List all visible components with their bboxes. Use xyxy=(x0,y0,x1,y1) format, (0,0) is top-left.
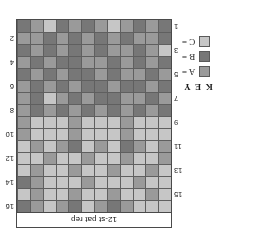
chart-cell xyxy=(56,68,69,80)
chart-cell xyxy=(145,140,158,152)
chart-cell xyxy=(158,200,171,212)
chart-cell xyxy=(158,32,171,44)
chart-cell xyxy=(30,140,43,152)
chart-cell xyxy=(133,44,146,56)
chart-cell xyxy=(56,32,69,44)
chart-row: 4 xyxy=(17,56,171,68)
chart-row-number: 7 xyxy=(174,92,178,104)
chart-cell xyxy=(94,200,107,212)
chart-cell xyxy=(30,80,43,92)
chart-cell xyxy=(81,200,94,212)
chart-cell xyxy=(107,20,120,32)
chart-cell xyxy=(133,68,146,80)
chart-cell xyxy=(81,56,94,68)
chart-cell xyxy=(158,188,171,200)
chart-cell xyxy=(133,140,146,152)
chart-cell xyxy=(94,152,107,164)
chart-cell xyxy=(94,176,107,188)
chart-row-number: 10 xyxy=(6,128,14,140)
chart-cell xyxy=(81,140,94,152)
chart-cell xyxy=(30,188,43,200)
chart-cell xyxy=(133,104,146,116)
chart-row: 5 xyxy=(17,68,171,80)
chart-cell xyxy=(158,164,171,176)
chart-cell xyxy=(120,68,133,80)
chart-cell xyxy=(94,128,107,140)
chart-cell xyxy=(120,116,133,128)
key-entry: A = xyxy=(182,66,244,77)
chart-row: 10 xyxy=(17,128,171,140)
chart-cell xyxy=(30,104,43,116)
chart-cell xyxy=(43,44,56,56)
chart-cell xyxy=(120,92,133,104)
chart-cell xyxy=(120,164,133,176)
chart-cell xyxy=(94,68,107,80)
chart-cell xyxy=(43,56,56,68)
chart-cell xyxy=(158,92,171,104)
chart-cell xyxy=(17,164,30,176)
chart-row-number: 6 xyxy=(10,80,14,92)
key-legend: K E Y A =B =C = xyxy=(182,32,244,92)
pattern-repeat-header: 12-st pat rep xyxy=(16,213,172,228)
chart-cell xyxy=(17,128,30,140)
chart-figure: K E Y A =B =C = 12-st pat rep 1615141312… xyxy=(0,0,255,234)
chart-cell xyxy=(30,200,43,212)
chart-cell xyxy=(56,128,69,140)
chart-cell xyxy=(68,20,81,32)
chart-cell xyxy=(133,164,146,176)
chart-cell xyxy=(145,176,158,188)
chart-cell xyxy=(81,104,94,116)
chart-cell xyxy=(145,128,158,140)
chart-cell xyxy=(43,140,56,152)
key-entry-label: B = xyxy=(182,51,195,62)
chart-cell xyxy=(30,20,43,32)
chart-cell xyxy=(68,80,81,92)
chart-cell xyxy=(145,104,158,116)
chart-row: 12 xyxy=(17,152,171,164)
chart-row: 9 xyxy=(17,116,171,128)
chart-row-number: 11 xyxy=(174,140,182,152)
chart-cell xyxy=(68,68,81,80)
chart-cell xyxy=(145,20,158,32)
chart-cell xyxy=(107,116,120,128)
chart-cell xyxy=(107,80,120,92)
chart-cell xyxy=(43,176,56,188)
chart-cell xyxy=(17,200,30,212)
chart-row-number: 5 xyxy=(174,68,178,80)
chart-cell xyxy=(17,68,30,80)
chart-cell xyxy=(68,92,81,104)
chart-cell xyxy=(145,188,158,200)
chart-cell xyxy=(81,116,94,128)
chart-cell xyxy=(107,152,120,164)
chart-cell xyxy=(30,152,43,164)
chart-cell xyxy=(56,80,69,92)
chart-cell xyxy=(158,176,171,188)
chart-row: 13 xyxy=(17,164,171,176)
chart-cell xyxy=(81,32,94,44)
chart-cell xyxy=(120,20,133,32)
chart-cell xyxy=(81,176,94,188)
chart-cell xyxy=(68,164,81,176)
chart-cell xyxy=(43,164,56,176)
chart-cell xyxy=(145,44,158,56)
chart-cell xyxy=(133,56,146,68)
chart-cell xyxy=(94,44,107,56)
chart-cell xyxy=(81,68,94,80)
chart-cell xyxy=(68,56,81,68)
chart-cell xyxy=(158,116,171,128)
chart-cell xyxy=(81,92,94,104)
chart-cell xyxy=(94,56,107,68)
chart-row-number: 15 xyxy=(174,188,182,200)
chart-row-number: 9 xyxy=(174,116,178,128)
pattern-repeat-label: 12-st pat rep xyxy=(71,216,117,225)
chart-cell xyxy=(133,200,146,212)
key-entry-list: A =B =C = xyxy=(182,36,244,77)
chart-cell xyxy=(145,56,158,68)
chart-cell xyxy=(107,176,120,188)
chart-cell xyxy=(145,116,158,128)
chart-row: 1 xyxy=(17,20,171,32)
key-entry-label: A = xyxy=(182,66,195,77)
chart-cell xyxy=(43,116,56,128)
chart-cell xyxy=(43,32,56,44)
chart-row-number: 3 xyxy=(174,44,178,56)
